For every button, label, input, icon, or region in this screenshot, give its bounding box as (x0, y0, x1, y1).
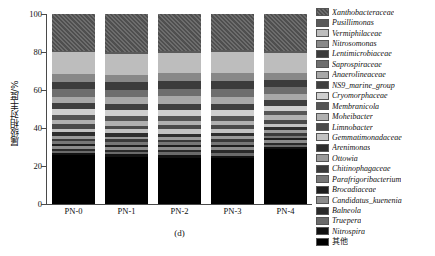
legend-swatch-icon (316, 175, 329, 183)
figure-panel-d: 属级相对丰度/% 020406080100 PN-0PN-1PN-2PN-3PN… (0, 0, 435, 256)
legend-item[interactable]: 其他 (316, 237, 435, 247)
legend-swatch-icon (316, 196, 329, 204)
legend-item[interactable]: Xanthobacteraceae (316, 7, 435, 17)
bar-segment (105, 90, 148, 97)
legend-item[interactable]: Ottowia (316, 153, 435, 163)
bar-segment (158, 158, 201, 204)
legend-item[interactable]: Vermiphilaceae (316, 28, 435, 38)
legend-swatch-icon (316, 71, 329, 79)
legend-swatch-icon (316, 8, 329, 16)
legend-item[interactable]: Parafrigoribacterium (316, 174, 435, 184)
y-axis-tick-labels: 020406080100 (22, 8, 42, 204)
legend-item[interactable]: Anaerolineaceae (316, 70, 435, 80)
legend-item[interactable]: Nitrosomonas (316, 38, 435, 48)
bar-PN-0[interactable] (52, 14, 95, 204)
bar-PN-1[interactable] (105, 14, 148, 204)
bar-segment (52, 97, 95, 104)
bar-PN-4[interactable] (264, 14, 307, 204)
legend-swatch-icon (316, 154, 329, 162)
legend-item[interactable]: Moheibacter (316, 111, 435, 121)
legend-swatch-icon (316, 227, 329, 235)
legend-item[interactable]: Chitinophagaceae (316, 164, 435, 174)
bar-segment (158, 14, 201, 51)
legend-item[interactable]: Gemmatimonadaceae (316, 132, 435, 142)
legend-item[interactable]: Membranicola (316, 101, 435, 111)
legend-label: Pusillimonas (332, 18, 374, 27)
bar-segment (211, 81, 254, 89)
bar-segment (52, 155, 95, 204)
legend-item[interactable]: Lentimicrobiaceae (316, 49, 435, 59)
legend-item[interactable]: Candidatus_kuenenia (316, 195, 435, 205)
legend-label: Chitinophagaceae (332, 164, 391, 173)
bar-PN-2[interactable] (158, 14, 201, 204)
x-axis-tick-labels: PN-0PN-1PN-2PN-3PN-4 (47, 206, 312, 222)
y-tickmark-20 (41, 166, 46, 167)
legend-swatch-icon (316, 144, 329, 152)
legend-item[interactable]: Arenimonas (316, 143, 435, 153)
legend-label: Vermiphilaceae (332, 29, 382, 38)
bar-segment (158, 53, 201, 73)
bar-segment (105, 82, 148, 90)
bar-segment (158, 81, 201, 89)
legend-item[interactable]: NS9_marine_group (316, 80, 435, 90)
y-tickmark-60 (41, 90, 46, 91)
legend-item[interactable]: Nitrospira (316, 226, 435, 236)
legend-label: Cryomorphaceae (332, 91, 388, 100)
legend-label: Lentimicrobiaceae (332, 49, 392, 58)
bar-segment (52, 74, 95, 82)
y-tickmark-40 (41, 128, 46, 129)
legend-item[interactable]: Truepera (316, 216, 435, 226)
legend-swatch-icon (316, 165, 329, 173)
y-axis-title: 属级相对丰度/% (6, 48, 22, 178)
legend-item[interactable]: Pusillimonas (316, 17, 435, 27)
legend-swatch-icon (316, 40, 329, 48)
bar-segment (52, 82, 95, 90)
bar-PN-3[interactable] (211, 14, 254, 204)
legend-label: Membranicola (332, 102, 379, 111)
plot-area: 属级相对丰度/% 020406080100 PN-0PN-1PN-2PN-3PN… (0, 0, 318, 256)
bar-segment (105, 14, 148, 52)
legend-label: Truepera (332, 216, 361, 225)
legend-swatch-icon (316, 186, 329, 194)
legend-swatch-icon (316, 113, 329, 121)
legend-swatch-icon (316, 238, 329, 246)
legend-label: Xanthobacteraceae (332, 8, 394, 17)
x-tick-PN-0: PN-0 (52, 206, 95, 222)
legend-label: NS9_marine_group (332, 81, 395, 90)
y-tickmark-100 (41, 14, 46, 15)
stacked-bars (47, 14, 312, 204)
bar-segment (264, 80, 307, 87)
bar-segment (158, 73, 201, 81)
bar-segment (264, 53, 307, 72)
y-tickmark-0 (41, 204, 46, 205)
legend-label: Brocadiaceae (332, 185, 376, 194)
bar-segment (211, 158, 254, 204)
bar-segment (264, 14, 307, 51)
bar-segment (158, 89, 201, 96)
bar-segment (211, 52, 254, 73)
legend-item[interactable]: Brocadiaceae (316, 184, 435, 194)
legend-item[interactable]: Balneola (316, 205, 435, 215)
legend-item[interactable]: Saprospiraceae (316, 59, 435, 69)
legend-swatch-icon (316, 102, 329, 110)
bar-segment (211, 89, 254, 96)
bar-segment (211, 14, 254, 50)
legend-swatch-icon (316, 29, 329, 37)
bar-segment (158, 96, 201, 104)
bar-segment (105, 97, 148, 104)
figure-caption: (d) (47, 228, 312, 238)
bar-segment (52, 89, 95, 96)
y-tickmark-80 (41, 52, 46, 53)
legend-label: Parafrigoribacterium (332, 175, 401, 184)
bar-segment (52, 52, 95, 73)
legend-label: Arenimonas (332, 143, 370, 152)
legend-swatch-icon (316, 81, 329, 89)
bar-segment (105, 157, 148, 204)
legend-item[interactable]: Cryomorphaceae (316, 91, 435, 101)
legend-swatch-icon (316, 123, 329, 131)
bar-segment (264, 149, 307, 204)
bar-segment (211, 97, 254, 104)
legend-item[interactable]: Limnobacter (316, 122, 435, 132)
legend-label: Limnobacter (332, 123, 373, 132)
x-tick-PN-3: PN-3 (211, 206, 254, 222)
